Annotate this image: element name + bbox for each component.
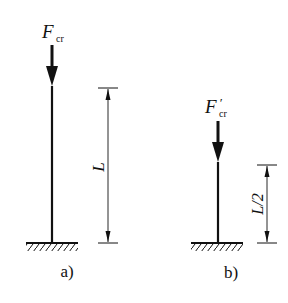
figure-a: F cr L a) bbox=[26, 21, 118, 281]
force-b-symbol: F bbox=[204, 96, 217, 117]
diagram-svg: F cr L a) F ′ cr bbox=[0, 0, 288, 303]
buckling-diagram: F cr L a) F ′ cr bbox=[0, 0, 288, 303]
length-label-a: L bbox=[89, 162, 108, 172]
fixed-support-b-icon bbox=[191, 243, 243, 251]
fixed-support-a-icon bbox=[26, 243, 78, 251]
force-b-subscript: cr bbox=[219, 108, 227, 119]
force-arrow-b-icon bbox=[212, 121, 224, 162]
force-arrow-a-icon bbox=[46, 45, 58, 86]
length-label-b: L/2 bbox=[249, 193, 266, 215]
caption-b: b) bbox=[224, 263, 238, 282]
caption-a: a) bbox=[60, 262, 73, 281]
force-a-subscript: cr bbox=[56, 33, 64, 44]
force-a-symbol: F bbox=[41, 21, 54, 42]
figure-b: F ′ cr L/2 b) bbox=[191, 95, 277, 282]
